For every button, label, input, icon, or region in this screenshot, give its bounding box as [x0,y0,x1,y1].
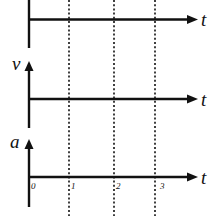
arrow-right-icon [187,95,198,104]
acceleration-graph: a t 0 1 2 3 [10,131,207,207]
motion-graphs-figure: t v t a t 0 1 2 3 [0,0,213,216]
tick-label-3: 3 [159,181,165,191]
velocity-graph-v-label: v [12,53,21,74]
velocity-graph: v t [12,53,207,128]
tick-label-0: 0 [31,181,36,191]
acceleration-graph-a-label: a [10,131,20,152]
tick-label-1: 1 [71,181,76,191]
velocity-graph-t-label: t [201,89,207,110]
arrow-right-icon [187,15,198,24]
top-graph: t [29,0,207,48]
dotted-guides [69,0,155,216]
arrow-up-icon [25,139,34,149]
arrow-right-icon [187,173,198,182]
acceleration-graph-t-label: t [201,167,207,188]
top-graph-t-label: t [201,9,207,30]
tick-label-2: 2 [116,181,121,191]
arrow-up-icon [25,61,34,71]
